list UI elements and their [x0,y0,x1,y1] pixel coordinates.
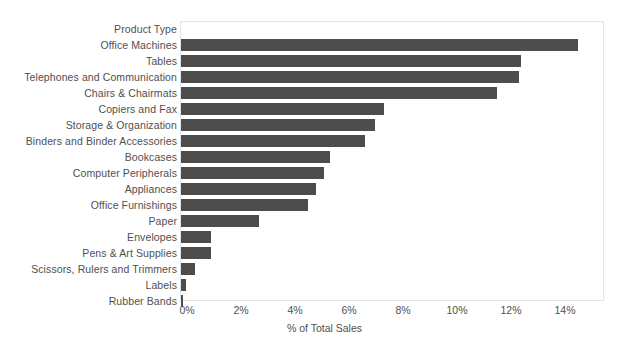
bar-row: Copiers and Fax [0,101,625,117]
x-axis-tick-label: 2% [233,303,248,317]
bar-row-label: Computer Peripherals [73,165,177,181]
bar-row-label: Scissors, Rulers and Trimmers [31,261,177,277]
bar-track [181,263,195,275]
bar-track [181,119,375,131]
bar-row: Binders and Binder Accessories [0,133,625,149]
bar-row-label: Labels [145,277,177,293]
bar[interactable] [181,199,308,211]
bar-track [181,71,519,83]
bar-row: Office Machines [0,37,625,53]
bar-row-label: Paper [148,213,177,229]
bar-track [181,167,324,179]
bar-track [181,199,308,211]
x-axis-tick-label: 12% [500,303,521,317]
bar[interactable] [181,39,578,51]
bar[interactable] [181,55,521,67]
x-axis-tick-label: 4% [287,303,302,317]
bar-row-label: Envelopes [127,229,177,245]
bar-row-label: Office Furnishings [91,197,177,213]
bar[interactable] [181,167,324,179]
bar-chart: Product Type Office MachinesTablesTeleph… [0,0,625,347]
bar-row: Storage & Organization [0,117,625,133]
bar-row: Tables [0,53,625,69]
bar[interactable] [181,279,186,291]
bar-track [181,231,211,243]
bar[interactable] [181,119,375,131]
x-axis-tick-label: 6% [341,303,356,317]
bar[interactable] [181,87,497,99]
bar-row: Bookcases [0,149,625,165]
bar-track [181,151,330,163]
bar-track [181,87,497,99]
bar-track [181,279,186,291]
x-axis-tick-label: 8% [395,303,410,317]
bar-row-label: Chairs & Chairmats [84,85,177,101]
bar-row: Office Furnishings [0,197,625,213]
bar[interactable] [181,151,330,163]
bar-row-label: Storage & Organization [66,117,177,133]
bar-row-label: Office Machines [100,37,177,53]
axis-header-row: Product Type [0,21,625,37]
bar-track [181,215,259,227]
bar-row: Labels [0,277,625,293]
bar-row: Telephones and Communication [0,69,625,85]
bar-row-label: Pens & Art Supplies [82,245,177,261]
x-axis-tick-label: 10% [446,303,467,317]
bar[interactable] [181,71,519,83]
bar-row-label: Binders and Binder Accessories [26,133,177,149]
bar-row-label: Telephones and Communication [24,69,177,85]
bar-track [181,183,316,195]
bar[interactable] [181,103,384,115]
bar-rows-container: Product Type Office MachinesTablesTeleph… [0,21,625,309]
bar[interactable] [181,263,195,275]
bar-row-label: Appliances [125,181,177,197]
bar-row: Appliances [0,181,625,197]
bar-row-label: Copiers and Fax [98,101,177,117]
bar-row: Envelopes [0,229,625,245]
x-axis-title-label: % of Total Sales [287,322,362,334]
bar-row: Chairs & Chairmats [0,85,625,101]
bar-track [181,103,384,115]
bar-row: Paper [0,213,625,229]
bar-row: Pens & Art Supplies [0,245,625,261]
bar[interactable] [181,247,211,259]
x-axis-tick-label: 14% [554,303,575,317]
bar[interactable] [181,231,211,243]
bar-row: Computer Peripherals [0,165,625,181]
bar-track [181,55,521,67]
bar-track [181,135,365,147]
bar[interactable] [181,215,259,227]
bar-track [181,39,578,51]
bar-track [181,247,211,259]
bar[interactable] [181,183,316,195]
bar-row: Scissors, Rulers and Trimmers [0,261,625,277]
bar[interactable] [181,135,365,147]
x-axis-tick-label: 0% [179,303,194,317]
bar-row-label: Bookcases [125,149,177,165]
x-axis-title: % of Total Sales [0,322,625,334]
bar-row-label: Tables [146,53,177,69]
x-axis-ticks: 0%2%4%6%8%10%12%14% [0,303,625,319]
y-axis-title: Product Type [114,21,177,37]
